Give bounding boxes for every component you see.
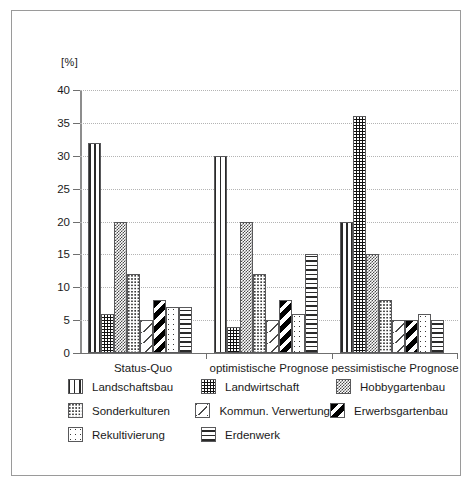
- y-axis-tick: [73, 189, 80, 190]
- chart-frame: [%] 0510152025303540 Status-Quooptimisti…: [11, 10, 461, 476]
- bar: [418, 314, 431, 353]
- x-axis-category-label: optimistische Prognose: [210, 362, 329, 374]
- y-axis-tick: [73, 123, 80, 124]
- y-axis-tick: [73, 222, 80, 223]
- legend-item[interactable]: Rekultivierung: [68, 427, 201, 442]
- bar: [227, 327, 240, 353]
- legend-label: Landschaftsbau: [92, 381, 173, 393]
- bar: [292, 314, 305, 353]
- y-axis-tick-label: 35: [57, 117, 70, 129]
- legend-item[interactable]: Sonderkulturen: [68, 403, 195, 418]
- legend-label: Erdenwerk: [225, 429, 280, 441]
- legend-label: Kommun. Verwertung: [219, 405, 330, 417]
- y-axis-tick: [73, 287, 80, 288]
- group-separator-tick: [457, 353, 458, 359]
- bar: [253, 274, 266, 353]
- legend-swatch-icon: [336, 379, 351, 394]
- bar: [340, 222, 353, 354]
- bar: [405, 320, 418, 353]
- y-axis-tick-label: 10: [57, 281, 70, 293]
- bar: [214, 156, 227, 353]
- legend-swatch-icon: [201, 379, 216, 394]
- bar: [366, 254, 379, 353]
- legend-row: SonderkulturenKommun. VerwertungErwerbsg…: [68, 403, 448, 418]
- legend-item[interactable]: Erdenwerk: [201, 427, 336, 442]
- legend-swatch-icon: [195, 403, 210, 418]
- legend-label: Hobbygartenbau: [360, 381, 445, 393]
- bar: [166, 307, 179, 353]
- y-axis-tick-label: 0: [64, 347, 70, 359]
- bar: [392, 320, 405, 353]
- bar: [153, 300, 166, 353]
- y-axis-tick-label: 40: [57, 84, 70, 96]
- group-separator-tick: [206, 353, 207, 359]
- legend-item[interactable]: Hobbygartenbau: [336, 379, 445, 394]
- bar: [279, 300, 292, 353]
- legend-item[interactable]: Kommun. Verwertung: [195, 403, 330, 418]
- x-axis-category-label: Status-Quo: [114, 362, 172, 374]
- bar: [431, 320, 444, 353]
- legend-swatch-icon: [68, 403, 83, 418]
- bar: [140, 320, 153, 353]
- y-axis-tick-label: 20: [57, 216, 70, 228]
- plot-area: 0510152025303540 Status-Quooptimistische…: [80, 90, 458, 353]
- x-axis-category-label: pessimistische Prognose: [331, 362, 458, 374]
- bar-group: [88, 90, 192, 353]
- y-axis-tick-label: 5: [64, 314, 70, 326]
- bar-group: [340, 90, 444, 353]
- bar: [114, 222, 127, 354]
- legend-swatch-icon: [330, 403, 345, 418]
- legend-label: Landwirtschaft: [225, 381, 299, 393]
- bar-group: [214, 90, 318, 353]
- legend-swatch-icon: [68, 379, 83, 394]
- legend-swatch-icon: [201, 427, 216, 442]
- legend-item[interactable]: Erwerbsgartenbau: [330, 403, 448, 418]
- legend-item[interactable]: Landschaftsbau: [68, 379, 201, 394]
- y-axis-tick: [73, 90, 80, 91]
- chart-legend: LandschaftsbauLandwirtschaftHobbygartenb…: [68, 379, 448, 451]
- legend-swatch-icon: [68, 427, 83, 442]
- bar: [379, 300, 392, 353]
- group-separator-tick: [332, 353, 333, 359]
- legend-label: Sonderkulturen: [92, 405, 170, 417]
- bar: [88, 143, 101, 353]
- y-axis-tick: [73, 320, 80, 321]
- legend-label: Rekultivierung: [92, 429, 165, 441]
- y-axis-tick-label: 15: [57, 248, 70, 260]
- y-axis-unit-label: [%]: [61, 56, 78, 68]
- y-axis-tick-label: 30: [57, 150, 70, 162]
- legend-row: RekultivierungErdenwerk: [68, 427, 448, 442]
- legend-row: LandschaftsbauLandwirtschaftHobbygartenb…: [68, 379, 448, 394]
- y-axis-tick: [73, 353, 80, 354]
- legend-label: Erwerbsgartenbau: [354, 405, 448, 417]
- bar: [179, 307, 192, 353]
- bar: [353, 116, 366, 353]
- bar: [127, 274, 140, 353]
- bar: [240, 222, 253, 354]
- bar: [305, 254, 318, 353]
- legend-item[interactable]: Landwirtschaft: [201, 379, 336, 394]
- bar: [266, 320, 279, 353]
- y-axis-tick-label: 25: [57, 183, 70, 195]
- x-axis-line: [80, 353, 458, 354]
- y-axis-tick: [73, 254, 80, 255]
- bar: [101, 314, 114, 353]
- y-axis-tick: [73, 156, 80, 157]
